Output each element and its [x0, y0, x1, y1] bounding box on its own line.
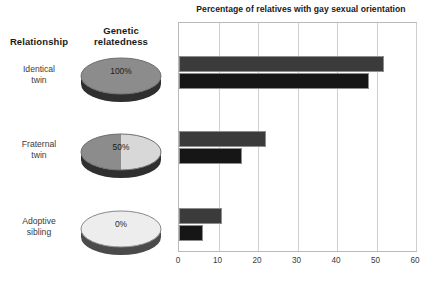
bar-males-adoptive-sibling	[179, 208, 222, 224]
row-label-adoptive-sibling: Adoptivesibling	[6, 216, 72, 237]
bar-males-fraternal-twin	[179, 131, 266, 147]
bar-females-identical-twin	[179, 73, 369, 89]
chart-title: Percentage of relatives with gay sexual …	[176, 4, 426, 14]
row-label-fraternal-twin: Fraternaltwin	[6, 139, 72, 160]
column-header-genetic-relatedness: Geneticrelatedness	[76, 25, 166, 47]
x-tick-label-0: 0	[168, 256, 188, 265]
bar-females-adoptive-sibling	[179, 225, 203, 241]
relatedness-disc-100: 100%	[79, 50, 163, 102]
x-tick-label-40: 40	[326, 256, 346, 265]
x-tick-label-10: 10	[208, 256, 228, 265]
bar-females-fraternal-twin	[179, 148, 242, 164]
x-tick-label-50: 50	[366, 256, 386, 265]
gridline-60	[416, 23, 417, 251]
row-label-identical-twin: Identicaltwin	[6, 64, 72, 85]
plot-area: Males Females	[178, 22, 417, 252]
figure: Relationship Geneticrelatedness Identica…	[0, 0, 428, 287]
x-tick-label-20: 20	[247, 256, 267, 265]
column-header-relationship: Relationship	[6, 36, 72, 47]
relatedness-disc-50: 50%	[79, 126, 163, 178]
bar-males-identical-twin	[179, 56, 384, 72]
x-tick-label-30: 30	[287, 256, 307, 265]
relatedness-disc-0: 0%	[79, 203, 163, 255]
x-tick-label-60: 60	[405, 256, 425, 265]
